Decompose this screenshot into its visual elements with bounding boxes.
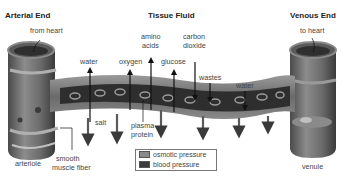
legend-label-blood: blood pressure — [153, 161, 199, 168]
arterial-end-header: Arterial End — [5, 11, 50, 20]
amino-acids-label-2: acids — [142, 42, 159, 50]
arteriole-label: arteriole — [15, 160, 41, 168]
legend-item-blood: blood pressure — [136, 160, 216, 170]
osmotic-swatch — [139, 151, 150, 158]
legend-label-osmotic: osmotic pressure — [153, 151, 206, 158]
salt-label: salt — [95, 119, 106, 127]
legend: osmotic pressure blood pressure — [135, 149, 217, 171]
legend-item-osmotic: osmotic pressure — [136, 150, 216, 160]
oxygen-label: oxygen — [119, 58, 142, 66]
carbon-dioxide-label-1: carbon — [183, 33, 205, 41]
tissue-fluid-header: Tissue Fluid — [148, 11, 195, 20]
smooth-muscle-label-1: smooth — [56, 155, 80, 163]
venule-vessel — [290, 42, 336, 158]
blood-swatch — [139, 161, 150, 168]
water-right-label: water — [236, 82, 254, 90]
water-left-label: water — [80, 58, 98, 66]
plasma-protein-label-1: plasma — [131, 122, 154, 130]
capillary — [50, 75, 295, 119]
wastes-label: wastes — [199, 74, 221, 82]
to-heart-label: to heart — [300, 27, 324, 35]
glucose-label: glucose — [161, 58, 186, 66]
amino-acids-label-1: amino — [141, 33, 161, 41]
venous-end-header: Venous End — [290, 11, 336, 20]
carbon-dioxide-label-2: dioxide — [183, 42, 206, 50]
venule-label: venule — [302, 163, 323, 171]
plasma-protein-label-2: protein — [131, 131, 153, 139]
from-heart-label: from heart — [30, 27, 63, 35]
smooth-muscle-label-2: muscle fiber — [52, 164, 91, 172]
